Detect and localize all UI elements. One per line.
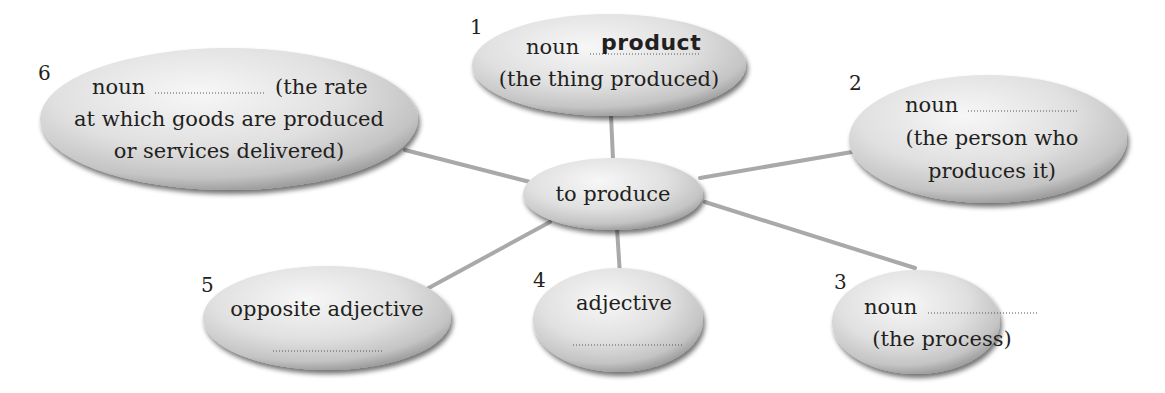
node-4-adjective: 4 adjective <box>533 268 703 372</box>
node-5-line1: opposite adjective <box>230 297 423 321</box>
connector-6 <box>405 150 530 182</box>
node-3-number: 3 <box>834 270 847 294</box>
node-6-number: 6 <box>38 61 51 85</box>
node-2-number: 2 <box>849 71 862 95</box>
center-node: to produce <box>523 158 703 230</box>
spider-diagram: 6 noun (the rate at which goods are prod… <box>0 0 1165 393</box>
node-1-noun-thing: 1 noun product (the thing produced) <box>470 14 746 116</box>
node-3-noun-process: 3 noun (the process) <box>832 270 1037 374</box>
node-2-line2: (the person who <box>906 126 1079 150</box>
node-3-line2: (the process) <box>872 327 1011 351</box>
node-1-line1-prefix: noun <box>526 35 579 59</box>
bubble-3 <box>832 270 1000 374</box>
node-6-line1-prefix: noun <box>92 75 145 99</box>
bubble-4 <box>533 268 703 372</box>
node-3-line1-prefix: noun <box>864 295 917 319</box>
node-6-noun-rate: 6 noun (the rate at which goods are prod… <box>38 48 418 190</box>
node-5-number: 5 <box>201 273 214 297</box>
connector-1 <box>611 115 613 160</box>
node-2-line3: produces it) <box>928 159 1056 183</box>
node-6-line1-suffix: (the rate <box>275 75 368 99</box>
node-5-opposite-adjective: 5 opposite adjective <box>201 266 451 370</box>
node-6-line3: or services delivered) <box>114 139 345 163</box>
node-2-line1-prefix: noun <box>905 93 958 117</box>
connector-3 <box>705 202 915 268</box>
center-label: to produce <box>555 182 670 206</box>
connector-5 <box>425 222 550 290</box>
node-1-number: 1 <box>470 15 483 39</box>
node-2-noun-person: 2 noun (the person who produces it) <box>849 71 1127 203</box>
node-1-line2: (the thing produced) <box>499 67 720 91</box>
node-1-answer: product <box>601 30 701 55</box>
connector-4 <box>617 228 620 275</box>
node-4-line1: adjective <box>576 291 672 315</box>
connector-2 <box>700 152 852 178</box>
node-4-number: 4 <box>533 268 546 292</box>
node-6-line2: at which goods are produced <box>74 107 384 131</box>
